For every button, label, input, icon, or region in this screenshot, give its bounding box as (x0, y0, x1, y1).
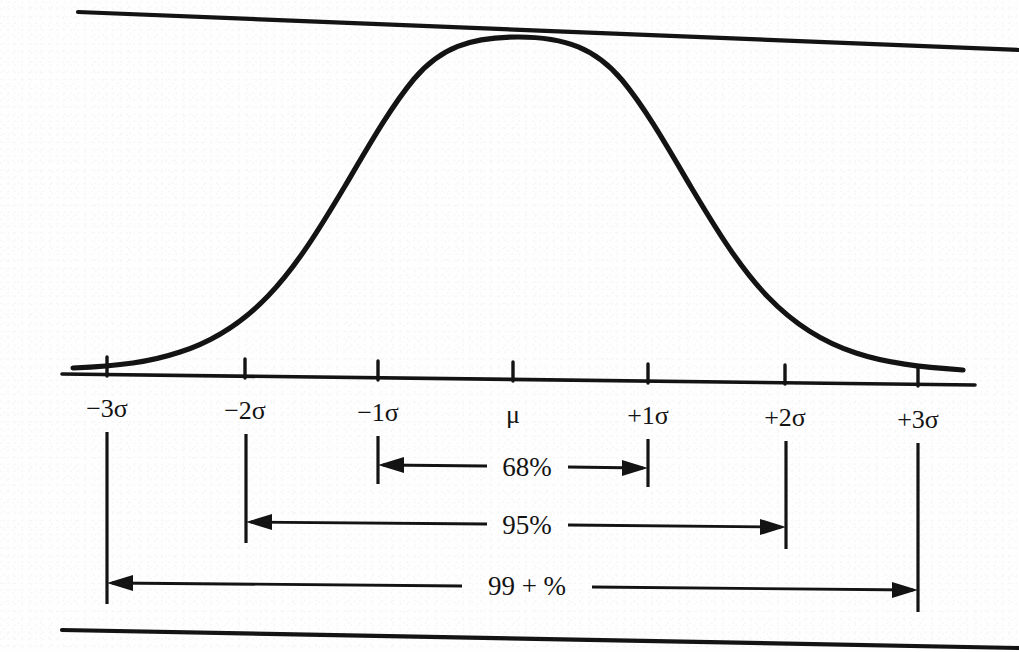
span-95-line-left (251, 522, 487, 524)
axis-label-plus-3-sigma: +3σ (897, 405, 939, 434)
span-99-plus-label: 99 + % (488, 571, 566, 601)
span-68-arrowhead-right (622, 460, 648, 476)
span-95-label: 95% (502, 510, 552, 540)
span-95-arrowhead-left (246, 514, 272, 530)
span-99-line-left (112, 583, 462, 586)
axis-label-mu: μ (506, 400, 520, 429)
axis-label-minus-2-sigma: −2σ (224, 396, 266, 425)
span-68-arrowhead-left (378, 457, 404, 473)
span-99-arrowhead-left (107, 575, 133, 591)
span-99-arrowhead-right (892, 582, 918, 598)
span-68-label: 68% (502, 452, 552, 482)
axis-label-minus-3-sigma: −3σ (86, 394, 128, 423)
axis-label-minus-1-sigma: −1σ (357, 398, 399, 427)
span-95-percent: 95% (246, 510, 786, 540)
span-99-line-right (592, 587, 913, 590)
axis-label-plus-1-sigma: +1σ (627, 401, 669, 430)
bottom-page-rule (62, 630, 1019, 648)
top-page-rule (78, 12, 1019, 50)
bell-curve (73, 37, 963, 370)
span-95-arrowhead-right (760, 519, 786, 535)
span-99-plus-percent: 99 + % (107, 571, 918, 601)
span-95-line-right (568, 525, 781, 527)
axis-label-plus-2-sigma: +2σ (764, 403, 806, 432)
normal-curve-figure: −3σ −2σ −1σ μ +1σ +2σ +3σ 68% (0, 0, 1019, 652)
span-68-percent: 68% (378, 452, 648, 482)
baseline-axis (62, 374, 975, 385)
figure-page: −3σ −2σ −1σ μ +1σ +2σ +3σ 68% (0, 0, 1019, 652)
